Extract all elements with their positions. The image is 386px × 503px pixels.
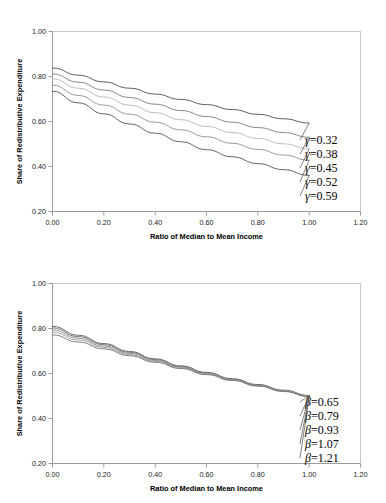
beta-ytick-0: 0.20: [32, 459, 46, 468]
beta-series-label-group: β=0.65β=0.79β=0.93β=1.07β=1.21: [300, 395, 339, 465]
gamma-xtick-0: 0.00: [46, 218, 60, 227]
beta-xtick-0: 0.00: [46, 470, 60, 479]
beta-xtick-6: 1.20: [354, 470, 368, 479]
series-curve-1: [53, 74, 310, 137]
gamma-xtick-1: 0.20: [97, 218, 111, 227]
gamma-ytick-4: 1.00: [32, 27, 46, 36]
beta-x-axis-title: Ratio of Median to Mean Income: [150, 484, 263, 493]
series-curve-2: [53, 79, 310, 149]
series-curve-0: [53, 326, 310, 395]
beta-curve-group: [53, 326, 310, 396]
gamma-curve-group: [53, 68, 310, 176]
series-label-2: γ=0.45: [305, 161, 338, 175]
gamma-xtick-2: 0.40: [148, 218, 162, 227]
beta-y-axis-title: Share of Redistributive Expenditure: [15, 311, 24, 437]
gamma-xtick-3: 0.60: [200, 218, 214, 227]
gamma-x-axis: 0.00 0.20 0.40 0.60 0.80 1.00 1.20 Ratio…: [46, 212, 368, 242]
gamma-y-axis: 1.00 0.80 0.60 0.40 0.20 Share of Redist…: [15, 27, 53, 216]
beta-xtick-2: 0.40: [148, 470, 162, 479]
beta-y-axis: 1.00 0.80 0.60 0.40 0.20 Share of Redist…: [15, 279, 53, 468]
series-curve-0: [53, 68, 310, 123]
gamma-y-axis-title: Share of Redistributive Expenditure: [15, 59, 24, 185]
series-curve-4: [53, 91, 310, 175]
gamma-ytick-1: 0.40: [32, 162, 46, 171]
chart-panel-gamma: 1.00 0.80 0.60 0.40 0.20 Share of Redist…: [0, 0, 386, 251]
beta-xtick-4: 0.80: [251, 470, 265, 479]
series-label-2: β=0.93: [304, 423, 339, 437]
beta-ytick-3: 0.80: [32, 324, 46, 333]
gamma-ytick-0: 0.20: [32, 207, 46, 216]
gamma-series-label-group: γ=0.32γ=0.38γ=0.45γ=0.52γ=0.59: [300, 123, 338, 203]
series-label-4: β=1.21: [304, 451, 339, 465]
gamma-xtick-4: 0.80: [251, 218, 265, 227]
gamma-x-axis-title: Ratio of Median to Mean Income: [150, 232, 263, 241]
beta-xtick-1: 0.20: [97, 470, 111, 479]
beta-xtick-3: 0.60: [200, 470, 214, 479]
chart-panel-beta: 1.00 0.80 0.60 0.40 0.20 Share of Redist…: [0, 251, 386, 503]
beta-chart-svg: 1.00 0.80 0.60 0.40 0.20 Share of Redist…: [0, 251, 386, 503]
series-curve-3: [53, 85, 310, 160]
series-label-3: γ=0.52: [305, 175, 338, 189]
beta-ytick-1: 0.40: [32, 414, 46, 423]
series-label-1: γ=0.38: [305, 147, 338, 161]
beta-x-axis: 0.00 0.20 0.40 0.60 0.80 1.00 1.20 Ratio…: [46, 464, 368, 494]
beta-ytick-4: 1.00: [32, 279, 46, 288]
gamma-ytick-3: 0.80: [32, 72, 46, 81]
beta-xtick-5: 1.00: [302, 470, 316, 479]
series-label-4: γ=0.59: [305, 189, 338, 203]
gamma-chart-svg: 1.00 0.80 0.60 0.40 0.20 Share of Redist…: [0, 0, 386, 251]
gamma-xtick-6: 1.20: [354, 218, 368, 227]
series-label-3: β=1.07: [304, 437, 339, 451]
series-curve-1: [53, 328, 310, 396]
gamma-xtick-5: 1.00: [302, 218, 316, 227]
series-label-1: β=0.79: [304, 409, 339, 423]
gamma-ytick-2: 0.60: [32, 117, 46, 126]
series-label-0: γ=0.32: [305, 133, 338, 147]
beta-ytick-2: 0.60: [32, 369, 46, 378]
